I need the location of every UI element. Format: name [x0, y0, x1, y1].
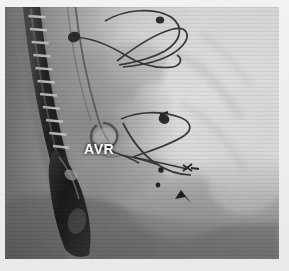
avr-text-annotation: AVR [84, 142, 114, 156]
fluoroscopy-image-frame [5, 7, 279, 259]
image-mottle [5, 7, 279, 259]
fluoroscopy-canvas [5, 7, 279, 259]
fluoroscopy-figure: AVR [0, 0, 289, 271]
